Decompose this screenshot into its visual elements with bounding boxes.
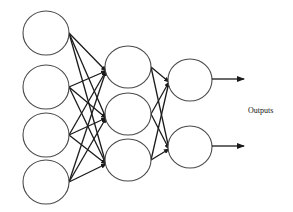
- input-node-3: [23, 113, 69, 157]
- output-node-2: [168, 126, 212, 168]
- outputs-label: Outputs: [248, 106, 273, 115]
- hidden-node-3: [105, 139, 151, 181]
- nodes: [23, 11, 212, 204]
- input-node-4: [23, 160, 69, 204]
- output-arrows: [212, 79, 244, 146]
- neural-network-diagram: Outputs: [0, 0, 293, 212]
- connection-input-2-to-hidden-1: [69, 71, 106, 87]
- output-node-1: [168, 59, 212, 101]
- input-node-2: [23, 65, 69, 109]
- hidden-node-2: [105, 93, 151, 135]
- connection-hidden-3-to-output-1: [151, 82, 169, 160]
- input-node-1: [23, 11, 69, 55]
- hidden-node-1: [105, 46, 151, 88]
- connection-input-1-to-hidden-2: [69, 33, 106, 118]
